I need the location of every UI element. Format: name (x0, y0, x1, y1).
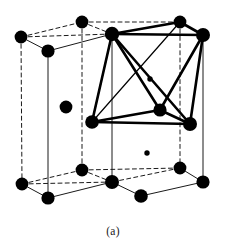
bond-bold (92, 110, 160, 122)
atom-top-center (105, 27, 119, 41)
cell-edge-dashed (21, 34, 112, 37)
hcp-figure: (a) (0, 0, 226, 247)
bond-bold (92, 34, 112, 122)
atom-mid-left-interior (60, 101, 73, 114)
cell-edge-dashed (21, 22, 82, 37)
cell-edge-dashed (112, 168, 180, 182)
cell-edge-solid (48, 34, 112, 51)
atom-top-back-mid (76, 16, 89, 29)
cell-edge-dashed (22, 170, 82, 184)
atom-mid-center (153, 103, 166, 116)
cell-edge-dashed (21, 37, 22, 184)
hcp-crystal-diagram (0, 0, 226, 247)
atom-bottom-back-left (16, 178, 29, 191)
cell-edge-dashed (22, 182, 112, 184)
atom-top-front-left (41, 44, 54, 57)
atom-bottom-center (105, 175, 119, 189)
atom-bottom-back-right (174, 162, 187, 175)
cell-edge-solid (141, 182, 203, 196)
atom-small-upper (147, 76, 152, 81)
figure-caption: (a) (0, 225, 226, 237)
cell-edge-solid (48, 182, 112, 198)
atom-bottom-front-left (41, 191, 54, 204)
atom-mid-front-left (85, 115, 99, 129)
atom-bottom-right (196, 175, 209, 188)
atom-bottom-front-right (134, 189, 148, 203)
bond-bold (112, 22, 180, 34)
bond-bold (92, 122, 190, 124)
atom-top-back-left (15, 31, 28, 44)
atom-top-right (196, 28, 210, 42)
atom-bottom-back-mid (76, 164, 89, 177)
atom-small-lower (144, 150, 149, 155)
atom-mid-front-right (183, 117, 197, 131)
atom-top-back-right (174, 16, 187, 29)
bond-bold (112, 34, 203, 35)
bond-bold (112, 34, 160, 110)
cell-edge-dashed (82, 168, 180, 170)
